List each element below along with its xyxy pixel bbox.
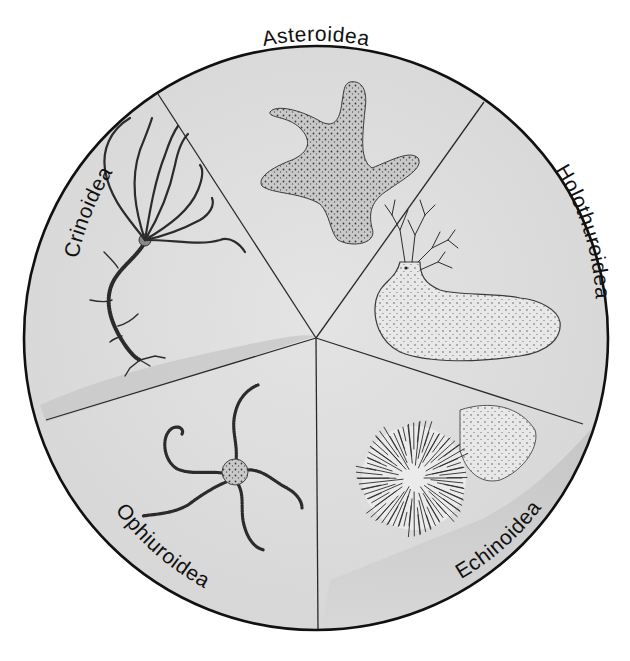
echinoderm-pie-diagram: Asteroidea Holothuroidea Echinoidea Ophi… xyxy=(0,0,630,661)
